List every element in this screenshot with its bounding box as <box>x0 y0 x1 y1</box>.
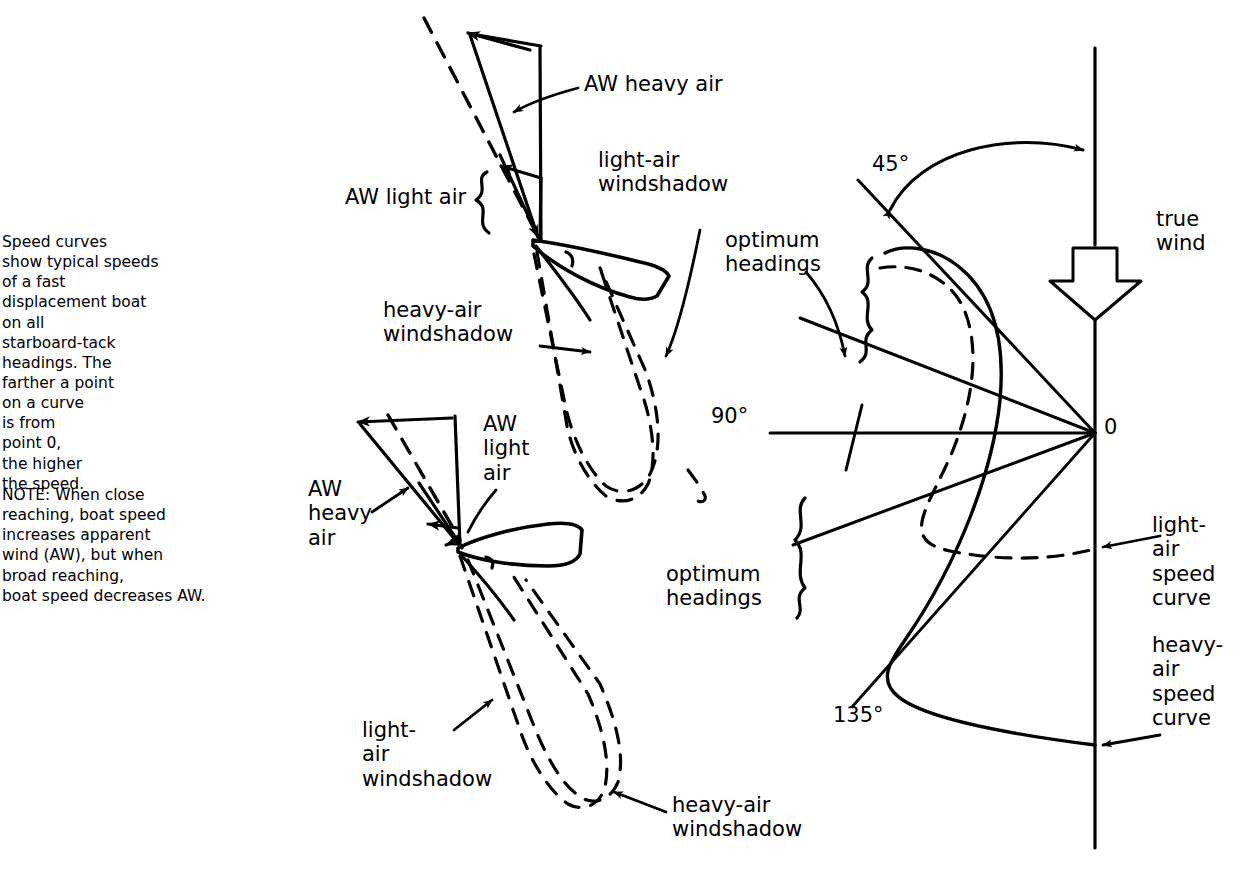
label-heavy-air-windshadow-bottom: heavy-air windshadow <box>672 793 802 842</box>
label-origin-zero: 0 <box>1104 415 1117 439</box>
upper-aw-heavy-vector <box>470 35 538 237</box>
upper-heavy-air-windshadow <box>534 254 658 491</box>
lower-aw-heavy-arrow <box>358 418 452 422</box>
diagram-page: Speed curves show typical speeds of a fa… <box>0 0 1257 870</box>
label-light-air-windshadow-top: light-air windshadow <box>598 148 728 197</box>
ray-close-reach <box>800 318 1095 433</box>
label-aw-heavy-air-bottom: AW heavy air <box>308 477 372 550</box>
aw-heavy-air-leader-lower <box>372 488 408 512</box>
label-angle-45: 45° <box>872 152 909 176</box>
label-aw-light-air-top: AW light air <box>345 185 466 209</box>
lower-boatspeed-vector <box>455 416 460 545</box>
upper-light-air-windshadow <box>537 252 653 501</box>
label-heavy-air-speed-curve: heavy- air speed curve <box>1152 633 1223 730</box>
sailing-polar-diagram-art <box>0 0 1257 870</box>
light-air-windshadow-leader-upper <box>666 230 700 356</box>
upper-windshadow-tip <box>688 470 705 502</box>
angle-arc-45 <box>890 143 1083 211</box>
optimum-headings-leader-upper <box>806 272 845 356</box>
label-angle-90: 90° <box>711 404 748 428</box>
label-optimum-headings-bottom: optimum headings <box>666 562 762 611</box>
upper-light-boatspeed <box>540 178 541 240</box>
heavy-air-curve-leader <box>1103 735 1160 745</box>
heavy-air-windshadow-leader-upper <box>540 346 590 352</box>
lower-aw-heavy-vector <box>360 424 462 548</box>
ray-broad-reach <box>793 433 1095 545</box>
optimum-headings-brace-lower <box>795 498 805 618</box>
true-wind-arrow-icon <box>1050 248 1141 320</box>
aw-light-air-leader-lower <box>468 490 496 532</box>
tick-90deg <box>846 405 862 470</box>
label-light-air-speed-curve: light- air speed curve <box>1152 513 1215 610</box>
lower-boat-hull <box>458 523 582 566</box>
aw-heavy-air-leader-upper <box>514 88 578 112</box>
aw-light-air-brace-upper <box>476 172 489 233</box>
label-heavy-air-windshadow-top: heavy-air windshadow <box>383 298 513 347</box>
ray-45deg <box>858 180 1095 433</box>
label-light-air-windshadow-bottom: light- air windshadow <box>362 718 492 791</box>
label-true-wind: true wind <box>1156 207 1206 256</box>
light-air-speed-curve <box>880 267 1095 558</box>
label-optimum-headings-top: optimum headings <box>725 228 821 277</box>
label-aw-light-air-bottom: AW light air <box>483 412 530 485</box>
lower-true-wind-dashed <box>388 415 460 540</box>
heavy-air-windshadow-leader-lower <box>614 792 666 812</box>
lower-boat-cockpit <box>486 557 493 568</box>
upper-boat-cockpit <box>566 252 573 266</box>
lower-aw-light-arrow <box>428 524 458 528</box>
label-aw-heavy-air-top: AW heavy air <box>584 72 723 96</box>
label-angle-135: 135° <box>833 703 884 727</box>
lower-aw-light-vector <box>419 483 461 546</box>
